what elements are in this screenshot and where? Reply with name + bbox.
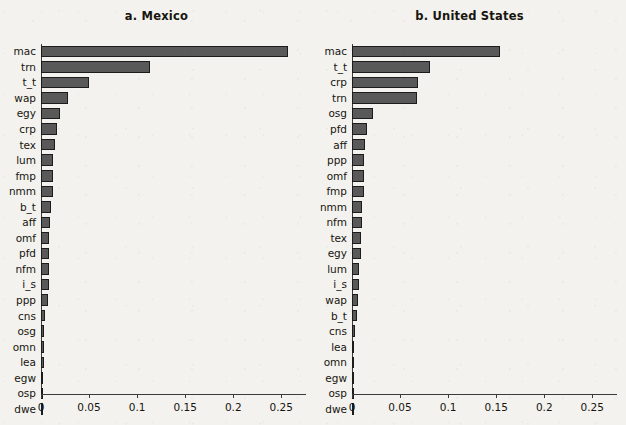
bar-track — [352, 91, 626, 107]
bar-row: i_s — [313, 277, 626, 293]
x-tick-label: 0.25 — [581, 401, 604, 413]
bar — [41, 263, 49, 275]
bar-row: nfm — [313, 215, 626, 231]
bar-track — [41, 370, 313, 386]
category-label: pfd — [0, 248, 41, 259]
panel-a-bar-rows: mactrnt_twapegycrptexlumfmpnmmb_taffomfp… — [0, 44, 313, 417]
category-label: wap — [0, 93, 41, 104]
bar-track — [41, 246, 313, 262]
bar-track — [41, 308, 313, 324]
bar-track — [352, 324, 626, 340]
bar — [41, 186, 53, 198]
bar — [41, 139, 55, 151]
bar-row: t_t — [313, 60, 626, 76]
category-label: dwe — [0, 404, 41, 415]
bar-track — [41, 137, 313, 153]
bar-row: nfm — [0, 262, 313, 278]
bar-track — [352, 215, 626, 231]
bar — [41, 217, 50, 229]
bar-row: egy — [0, 106, 313, 122]
bar-row: egw — [0, 370, 313, 386]
bar — [41, 61, 150, 73]
bar-row: egw — [313, 370, 626, 386]
bar-row: nmm — [313, 199, 626, 215]
bar-row: egy — [313, 246, 626, 262]
bar-row: wap — [0, 91, 313, 107]
bar — [352, 325, 355, 337]
category-label: t_t — [0, 77, 41, 88]
x-tick-label: 0.05 — [388, 401, 411, 413]
x-tick-label: 0.1 — [129, 401, 146, 413]
category-label: omn — [0, 342, 41, 353]
x-tick-mark — [89, 394, 90, 398]
x-tick-mark — [352, 394, 353, 398]
category-label: t_t — [313, 62, 352, 73]
bar — [352, 232, 361, 244]
bar — [41, 310, 45, 322]
category-label: ppp — [313, 155, 352, 166]
bar-row: nmm — [0, 184, 313, 200]
category-label: i_s — [0, 279, 41, 290]
bar-row: wap — [313, 293, 626, 309]
bar-row: b_t — [0, 199, 313, 215]
bar-track — [352, 370, 626, 386]
bar — [352, 294, 358, 306]
bar-row: pfd — [0, 246, 313, 262]
bar-row: dwe — [313, 402, 626, 418]
bar-row: t_t — [0, 75, 313, 91]
bar-track — [352, 75, 626, 91]
bar-track — [352, 184, 626, 200]
bar-row: omf — [313, 168, 626, 184]
category-label: egw — [313, 373, 352, 384]
panel-a-plot-area: mactrnt_twapegycrptexlumfmpnmmb_taffomfp… — [0, 44, 313, 394]
bar-row: dwe — [0, 402, 313, 418]
bar-row: fmp — [0, 168, 313, 184]
x-tick-label: 0 — [38, 401, 45, 413]
category-label: ppp — [0, 295, 41, 306]
bar-row: trn — [313, 91, 626, 107]
bar — [352, 61, 430, 73]
bar-track — [41, 122, 313, 138]
bar-track — [352, 60, 626, 76]
bar-track — [41, 324, 313, 340]
bar-row: aff — [313, 137, 626, 153]
bar-row: crp — [0, 122, 313, 138]
bar — [352, 77, 418, 89]
bar — [41, 170, 53, 182]
category-label: trn — [0, 62, 41, 73]
panel-b-title: b. United States — [313, 9, 626, 23]
panel-b-bar-rows: mact_tcrptrnosgpfdaffpppomffmpnmmnfmtexe… — [313, 44, 626, 417]
category-label: lea — [313, 342, 352, 353]
bar-track — [41, 153, 313, 169]
bar-track — [352, 277, 626, 293]
bar-row: lea — [313, 339, 626, 355]
bar-row: ppp — [313, 153, 626, 169]
bar-track — [352, 262, 626, 278]
bar-track — [41, 44, 313, 60]
category-label: nmm — [0, 186, 41, 197]
bar — [352, 139, 365, 151]
bar-row: crp — [313, 75, 626, 91]
category-label: omn — [313, 357, 352, 368]
category-label: egw — [0, 373, 41, 384]
x-tick-mark — [233, 394, 234, 398]
x-tick-label: 0.2 — [225, 401, 242, 413]
category-label: lum — [0, 155, 41, 166]
bar — [352, 186, 364, 198]
bar-track — [352, 153, 626, 169]
category-label: nmm — [313, 202, 352, 213]
bar — [41, 232, 49, 244]
bar — [41, 46, 288, 58]
bar — [41, 372, 43, 384]
bar-track — [41, 262, 313, 278]
category-label: trn — [313, 93, 352, 104]
bar — [41, 294, 48, 306]
category-label: osp — [313, 388, 352, 399]
bar — [41, 154, 53, 166]
bar-row: omn — [313, 355, 626, 371]
bar-row: fmp — [313, 184, 626, 200]
bar-row: lum — [313, 262, 626, 278]
x-tick-mark — [496, 394, 497, 398]
bar — [352, 217, 362, 229]
bar — [352, 170, 364, 182]
